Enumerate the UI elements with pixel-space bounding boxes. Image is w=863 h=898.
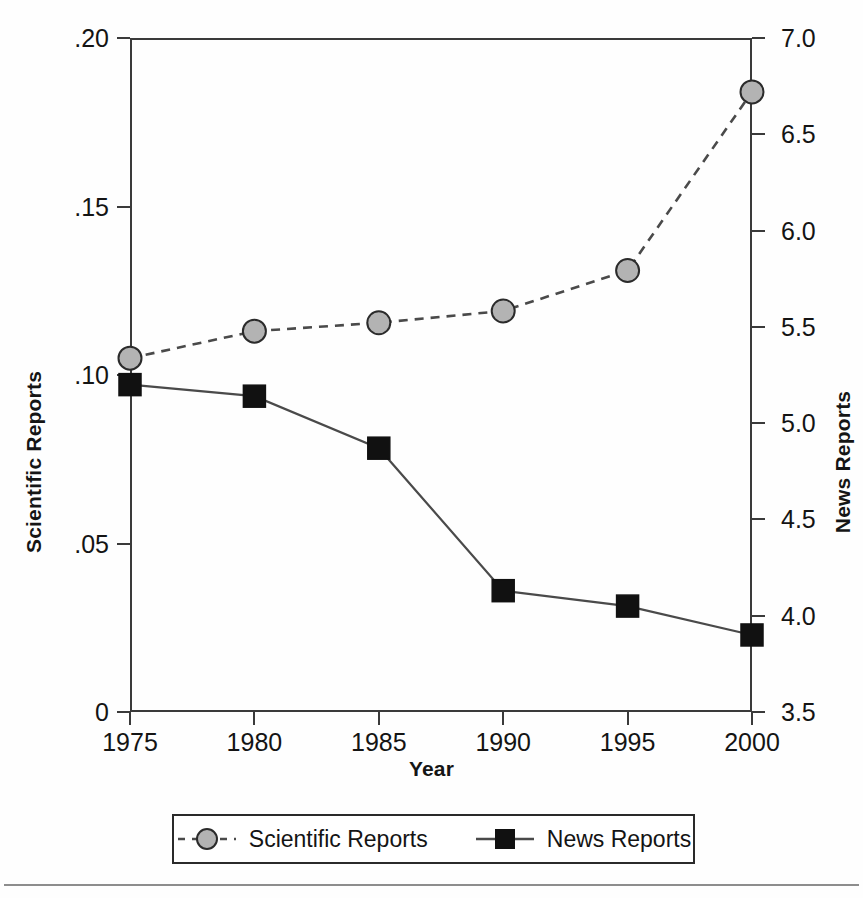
x-tick-label: 1975 — [102, 728, 158, 757]
y-axis-left-title: Scientific Reports — [22, 332, 46, 592]
square-marker — [119, 374, 141, 396]
y-right-tick — [752, 37, 765, 39]
y-right-tick — [752, 518, 765, 520]
y-left-tick — [117, 206, 130, 208]
y-right-tick-label: 6.0 — [781, 216, 816, 245]
x-tick — [627, 712, 629, 725]
y-left-tick-label: .10 — [74, 361, 109, 390]
x-tick-label: 1990 — [475, 728, 531, 757]
circle-marker — [176, 826, 238, 852]
y-right-tick — [752, 422, 765, 424]
x-axis-title: Year — [0, 757, 863, 781]
square-marker — [741, 624, 763, 646]
legend-label: News Reports — [547, 826, 691, 853]
circle-marker — [616, 259, 639, 282]
legend-entry[interactable]: Scientific Reports — [176, 826, 428, 853]
x-tick — [378, 712, 380, 725]
chart-figure: Scientific Reports News Reports Year .20… — [0, 0, 863, 898]
x-tick-label: 1980 — [227, 728, 283, 757]
square-marker — [617, 595, 639, 617]
y-left-tick-label: .15 — [74, 192, 109, 221]
y-right-tick-label: 7.0 — [781, 24, 816, 53]
y-right-tick-label: 5.0 — [781, 409, 816, 438]
y-left-tick-label: 0 — [95, 698, 109, 727]
footer-rule — [4, 884, 859, 886]
series-line — [130, 92, 752, 358]
chart-legend: Scientific ReportsNews Reports — [172, 814, 695, 864]
x-tick-label: 2000 — [724, 728, 780, 757]
y-right-tick-label: 5.5 — [781, 312, 816, 341]
circle-marker — [492, 299, 515, 322]
y-right-tick-label: 6.5 — [781, 120, 816, 149]
y-right-tick-label: 4.5 — [781, 505, 816, 534]
y-right-tick — [752, 711, 765, 713]
x-tick-label: 1995 — [600, 728, 656, 757]
y-left-tick — [117, 543, 130, 545]
y-axis-right-title: News Reports — [831, 332, 855, 592]
x-tick — [253, 712, 255, 725]
y-left-tick — [117, 37, 130, 39]
y-right-tick-label: 3.5 — [781, 698, 816, 727]
circle-marker — [367, 311, 390, 334]
legend-entry[interactable]: News Reports — [474, 826, 691, 853]
circle-marker — [119, 347, 142, 370]
square-marker — [474, 826, 536, 852]
circle-marker — [741, 80, 764, 103]
x-tick — [751, 712, 753, 725]
series-layer — [130, 38, 752, 712]
x-tick — [129, 712, 131, 725]
y-right-tick-label: 4.0 — [781, 601, 816, 630]
series-line — [130, 385, 752, 635]
legend-label: Scientific Reports — [249, 826, 428, 853]
plot-area: .20.15.10.050 7.06.56.05.55.04.54.03.5 1… — [130, 38, 752, 712]
square-marker — [243, 385, 265, 407]
y-right-tick — [752, 326, 765, 328]
y-right-tick — [752, 133, 765, 135]
y-right-tick — [752, 615, 765, 617]
x-tick — [502, 712, 504, 725]
x-tick-label: 1985 — [351, 728, 407, 757]
square-marker — [368, 437, 390, 459]
square-marker — [492, 580, 514, 602]
y-left-tick-label: .20 — [74, 24, 109, 53]
circle-marker — [243, 320, 266, 343]
y-right-tick — [752, 230, 765, 232]
y-left-tick-label: .05 — [74, 529, 109, 558]
